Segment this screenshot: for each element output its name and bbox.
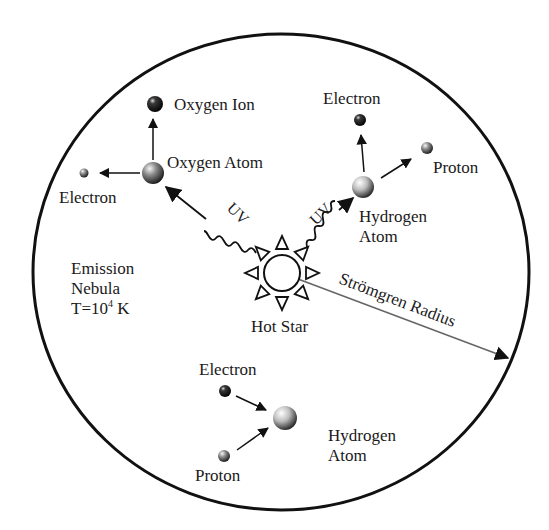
nebula-label-line1: Emission	[71, 259, 135, 278]
hydrogen-atom-icon	[352, 176, 374, 198]
stromgren-radius: Strömgren Radius	[282, 269, 508, 358]
free-electron-label: Electron	[199, 360, 257, 379]
hydrogen-atom-label-line2: Atom	[359, 227, 398, 246]
oxygen-electron-label: Electron	[59, 188, 117, 207]
recombination-group	[218, 385, 297, 462]
hot-star-label: Hot Star	[251, 317, 308, 336]
oxygen-atom-icon	[142, 162, 164, 184]
recombined-hydrogen-atom-icon	[273, 406, 297, 430]
ionized-proton-label: Proton	[433, 158, 479, 177]
oxygen-atom-label: Oxygen Atom	[167, 153, 263, 172]
oxygen-group	[80, 96, 165, 184]
ionized-proton-icon	[421, 142, 433, 154]
nebula-diagram: Strömgren Radius Hot Star UV UV O	[0, 0, 549, 530]
temp-prefix: T=10	[71, 299, 108, 318]
hot-star-icon	[245, 236, 319, 310]
free-proton-label: Proton	[195, 466, 241, 485]
free-electron-icon	[219, 385, 231, 397]
oxygen-electron-icon	[80, 169, 89, 178]
ionized-electron-label: Electron	[323, 89, 381, 108]
oxygen-ion-icon	[147, 96, 163, 112]
uv-label-left: UV	[224, 199, 253, 228]
oxygen-ion-label: Oxygen Ion	[174, 95, 255, 114]
temp-suffix: K	[113, 299, 130, 318]
ionized-electron-icon	[354, 114, 366, 126]
recombined-atom-label-line2: Atom	[328, 446, 367, 465]
free-proton-icon	[218, 450, 230, 462]
nebula-label-line2: Nebula	[71, 279, 121, 298]
recombined-atom-label-line1: Hydrogen	[328, 426, 396, 445]
nebula-temperature: T=104 K	[71, 298, 130, 318]
hydrogen-atom-label-line1: Hydrogen	[359, 207, 427, 226]
hydrogen-ionization-group	[352, 114, 433, 198]
